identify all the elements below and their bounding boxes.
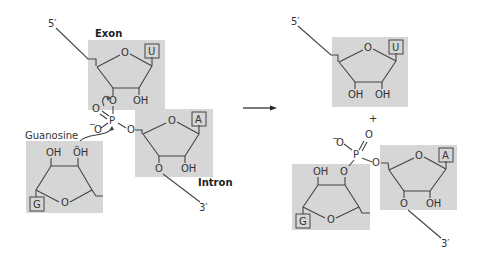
hydroxyl-intron: OH [426,198,441,209]
bond [362,158,372,162]
hydroxyl-g2: OH [46,147,61,158]
strand-3prime-line [163,174,200,202]
base-g: G [33,199,41,210]
ring-oxygen: O [415,150,423,161]
label-guanosine: Guanosine [25,130,78,141]
intron-5-oxygen: O [372,157,380,168]
splicing-diagram: 5′ Exon O U O OH P O O − O O [0,0,479,262]
bond [344,144,352,150]
ring-oxygen: O [168,115,176,126]
label-intron: Intron [198,177,233,188]
product-side: 5′ O U OH OH + O − O P O O OH O [291,16,457,249]
bridging-oxygen: O [109,95,117,106]
ring-oxygen: O [121,47,129,58]
bond [118,123,126,128]
ring-oxygen: O [364,42,372,53]
phosphate-double-o: O [92,103,100,114]
intron-5-oxygen: O [127,124,135,135]
base-g: G [299,216,307,227]
ring-oxygen: O [327,214,335,225]
plus-sign: + [369,113,377,124]
hydroxyl-2prime: OH [375,89,390,100]
base-a: A [195,114,202,125]
minus-sign: − [89,120,96,129]
strand-3prime-line [408,210,441,238]
guanosine-3-oxygen: O [340,166,348,177]
hydroxyl-exon: OH [133,95,148,106]
phosphate-double-o: O [365,129,373,140]
label-5prime: 5′ [48,18,57,29]
double-bond [102,111,109,116]
hydroxyl-g3-attacking: ÖH [73,146,88,158]
ring-oxygen: O [61,197,69,208]
intron-2-oxygen: O [155,163,163,174]
reaction-arrow [243,106,277,111]
base-u: U [392,42,399,53]
base-a: A [442,150,449,161]
phosphorus: P [109,115,115,126]
double-bond [100,114,107,119]
arrowhead-icon [270,106,277,111]
label-3prime: 3′ [199,202,208,213]
minus-sign: − [332,134,339,143]
reactant-side: 5′ Exon O U O OH P O O − O O [25,18,233,213]
hydroxyl-intron: OH [181,163,196,174]
phosphorus: P [353,149,359,160]
hydroxyl-g2: OH [313,166,328,177]
label-exon: Exon [95,28,122,39]
intron-2-oxygen: O [400,198,408,209]
hydroxyl-3prime: OH [348,89,363,100]
base-u: U [148,46,155,57]
bond [101,123,108,128]
label-3prime: 3′ [441,238,450,249]
label-5prime: 5′ [291,16,300,27]
arrowhead [109,126,114,131]
